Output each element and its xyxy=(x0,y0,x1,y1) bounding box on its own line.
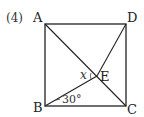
geometry-figure: (4) A D B C E x 30° xyxy=(0,0,144,117)
vertex-label-d: D xyxy=(127,10,137,25)
problem-number: (4) xyxy=(6,11,23,25)
vertex-label-b: B xyxy=(33,100,43,115)
vertex-label-a: A xyxy=(32,10,43,25)
angle-label-30: 30° xyxy=(62,93,82,106)
point-label-e: E xyxy=(100,69,110,84)
angle-x-arc xyxy=(90,73,91,79)
unknown-angle-x: x xyxy=(80,68,87,82)
diagonal-ac xyxy=(45,24,126,106)
vertex-label-c: C xyxy=(127,102,137,117)
